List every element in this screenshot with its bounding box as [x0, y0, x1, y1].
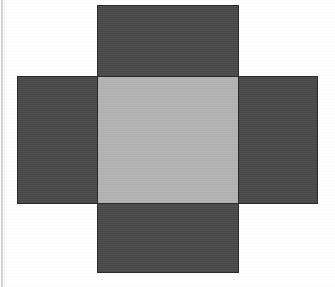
net-face-left	[17, 76, 98, 204]
scan-edge-line-secondary	[4, 0, 5, 287]
net-face-bottom	[97, 203, 239, 273]
scan-edge-line	[1, 0, 3, 287]
net-face-right	[238, 76, 318, 204]
net-face-center	[97, 76, 239, 204]
diagram-canvas: Cube net (cross-shaped arrangement of fi…	[0, 0, 335, 287]
net-face-top	[97, 5, 239, 78]
